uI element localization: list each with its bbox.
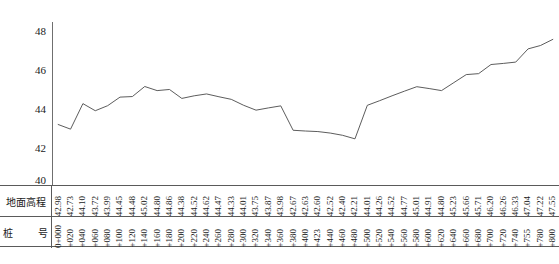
station-cell: +640 (448, 217, 460, 248)
elevation-cell: 42.21 (349, 185, 361, 216)
elevation-value: 44.62 (202, 196, 211, 216)
elevation-value: 46.26 (499, 196, 508, 216)
station-value: +320 (251, 229, 260, 248)
station-value: +300 (239, 229, 248, 248)
station-cell: +440 (324, 217, 336, 248)
station-cell: +480 (349, 217, 361, 248)
elevation-value: 42.67 (289, 196, 298, 216)
station-cell: +240 (200, 217, 212, 248)
station-value: +800 (548, 229, 557, 248)
elevation-value: 44.47 (214, 196, 223, 216)
elevation-cell: 44.45 (114, 185, 126, 216)
station-value: +360 (276, 229, 285, 248)
station-cells: 0+000+020+040+060+080+100+120+140+160+18… (52, 217, 559, 248)
station-cell: +280 (225, 217, 237, 248)
station-cell: +423 (312, 217, 324, 248)
station-value: +180 (165, 229, 174, 248)
station-value: +680 (474, 229, 483, 248)
row-header-station-label-left: 桩 (3, 225, 13, 240)
elevation-cell: 44.10 (77, 185, 89, 216)
elevation-value: 44.38 (177, 196, 186, 216)
station-cell: +755 (522, 217, 534, 248)
elevation-value: 42.60 (313, 196, 322, 216)
elevation-cells: 42.9842.7344.1043.7243.9944.4544.4845.02… (52, 186, 559, 216)
station-cell: +500 (361, 217, 373, 248)
station-cell: +460 (336, 217, 348, 248)
station-value: +060 (91, 229, 100, 248)
station-cell: +020 (64, 217, 76, 248)
elevation-value: 42.98 (54, 196, 63, 216)
station-cell: +340 (262, 217, 274, 248)
elevation-value: 44.48 (128, 196, 137, 216)
elevation-value: 44.86 (165, 196, 174, 216)
station-value: +780 (536, 229, 545, 248)
elevation-cell: 45.23 (448, 185, 460, 216)
station-cell: +180 (163, 217, 175, 248)
station-value: +620 (437, 229, 446, 248)
station-cell: +300 (237, 217, 249, 248)
station-value: +040 (78, 229, 87, 248)
row-header-station: 桩 号 (0, 217, 52, 248)
station-cell: +380 (287, 217, 299, 248)
elevation-cell: 44.48 (126, 185, 138, 216)
station-value: +440 (326, 229, 335, 248)
station-value: +160 (153, 229, 162, 248)
station-value: +540 (387, 229, 396, 248)
station-cell: +160 (151, 217, 163, 248)
elevation-value: 42.73 (66, 196, 75, 216)
station-value: +380 (289, 229, 298, 248)
station-cell: +360 (274, 217, 286, 248)
elevation-line-chart (0, 0, 559, 186)
station-cell: +680 (472, 217, 484, 248)
elevation-cell: 46.26 (497, 185, 509, 216)
elevation-value: 44.33 (227, 196, 236, 216)
elevation-cell: 42.63 (299, 185, 311, 216)
data-table: 地面高程 42.9842.7344.1043.7243.9944.4544.48… (0, 185, 559, 247)
station-cell: +660 (460, 217, 472, 248)
station-value: +260 (214, 229, 223, 248)
elevation-cell: 44.62 (200, 185, 212, 216)
station-cell: +560 (398, 217, 410, 248)
elevation-cell: 44.86 (163, 185, 175, 216)
elevation-cell: 42.73 (64, 185, 76, 216)
station-cell: +260 (213, 217, 225, 248)
station-value: +720 (499, 229, 508, 248)
elevation-cell: 47.22 (534, 185, 546, 216)
elevation-cell: 42.40 (336, 185, 348, 216)
elevation-cell: 44.80 (151, 185, 163, 216)
elevation-cell: 46.33 (509, 185, 521, 216)
station-cell: +320 (250, 217, 262, 248)
station-cell: +100 (114, 217, 126, 248)
station-value: +700 (486, 229, 495, 248)
station-cell: +600 (423, 217, 435, 248)
table-row-elevation: 地面高程 42.9842.7344.1043.7243.9944.4544.48… (0, 186, 559, 217)
station-value: +100 (115, 229, 124, 248)
station-cell: +400 (299, 217, 311, 248)
elevation-value: 45.71 (474, 196, 483, 216)
row-header-station-label-right: 号 (38, 225, 48, 240)
station-value: +400 (301, 229, 310, 248)
elevation-cell: 42.52 (324, 185, 336, 216)
elevation-value: 45.23 (449, 196, 458, 216)
elevation-cell: 45.02 (139, 185, 151, 216)
elevation-value: 44.80 (437, 196, 446, 216)
elevation-value: 44.80 (153, 196, 162, 216)
station-value: +660 (462, 229, 471, 248)
elevation-cell: 42.67 (287, 185, 299, 216)
station-cell: +540 (386, 217, 398, 248)
elevation-value: 47.22 (536, 196, 545, 216)
elevation-cell: 45.01 (410, 185, 422, 216)
chart-plot-area: 48 46 44 42 40 (0, 0, 559, 186)
elevation-cell: 44.38 (176, 185, 188, 216)
elevation-value: 42.40 (338, 196, 347, 216)
station-cell: +140 (139, 217, 151, 248)
elevation-cell: 44.01 (237, 185, 249, 216)
station-cell: +800 (546, 217, 558, 248)
station-cell: 0+000 (52, 217, 64, 248)
station-value: +640 (449, 229, 458, 248)
station-cell: +060 (89, 217, 101, 248)
elevation-cell: 44.91 (423, 185, 435, 216)
elevation-value: 47.04 (523, 196, 532, 216)
elevation-cell: 42.98 (52, 185, 64, 216)
station-cell: +200 (176, 217, 188, 248)
